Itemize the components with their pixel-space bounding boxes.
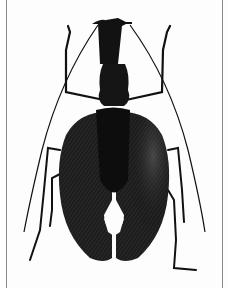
beetle-thorax [99,64,130,106]
beetle-elytra [59,108,169,262]
beetle-illustration [0,0,228,288]
photo-frame [0,0,228,288]
beetle-head [92,18,132,64]
